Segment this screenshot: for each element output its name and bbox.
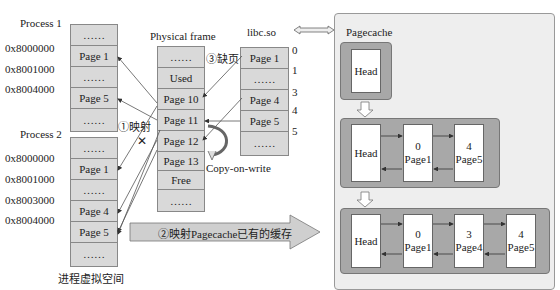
pagecache-list-2: Head 0 Page1 3 Page4 4 Page5 bbox=[340, 208, 550, 274]
down-arrow-icon bbox=[357, 192, 373, 207]
down-arrow-icon bbox=[357, 102, 373, 117]
map2-label: ②映射Pagecache已有的缓存 bbox=[158, 225, 292, 241]
pagecache-panel: Pagecache Head Head 0 Page1 4 Page5 bbox=[334, 13, 555, 290]
pagecache-list-1: Head 0 Page1 4 Page5 bbox=[340, 118, 500, 188]
double-arrow-icon bbox=[294, 26, 334, 34]
